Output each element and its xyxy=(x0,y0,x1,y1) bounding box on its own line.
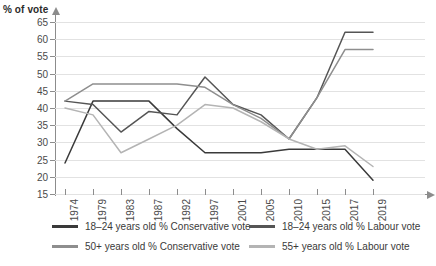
legend-swatch-icon xyxy=(249,245,275,247)
chart-legend: 18–24 years old % Conservative vote 18–2… xyxy=(0,221,436,261)
legend-label: 18–24 years old % Labour vote xyxy=(282,221,420,232)
x-axis-tick-mark xyxy=(317,189,318,195)
x-axis-tick-label: 2019 xyxy=(377,199,388,221)
y-axis-tick-label: 65 xyxy=(18,17,48,28)
legend-swatch-icon xyxy=(52,225,78,227)
x-axis-tick-label: 1992 xyxy=(181,199,192,221)
legend-item-0[interactable]: 18–24 years old % Conservative vote xyxy=(52,221,251,232)
x-axis-arrow-icon xyxy=(427,191,435,199)
y-axis-tick-label: 55 xyxy=(18,51,48,62)
series-line-3 xyxy=(65,105,373,167)
x-axis-tick-mark xyxy=(233,189,234,195)
legend-swatch-icon xyxy=(249,225,275,227)
y-axis-tick-label: 45 xyxy=(18,85,48,96)
x-axis-tick-label: 1979 xyxy=(97,199,108,221)
x-axis-tick-mark xyxy=(149,189,150,195)
legend-item-3[interactable]: 55+ years old % Labour vote xyxy=(249,241,410,252)
series-lines xyxy=(55,22,425,194)
x-axis-tick-mark xyxy=(373,189,374,195)
y-axis-tick-label: 25 xyxy=(18,154,48,165)
y-axis-tick-label: 60 xyxy=(18,34,48,45)
y-axis-tick-label: 35 xyxy=(18,120,48,131)
y-axis-tick-label: 15 xyxy=(18,189,48,200)
x-axis-tick-label: 1987 xyxy=(153,199,164,221)
x-axis-tick-mark xyxy=(289,189,290,195)
legend-label: 50+ years old % Conservative vote xyxy=(85,241,240,252)
legend-label: 55+ years old % Labour vote xyxy=(282,241,410,252)
x-axis-tick-mark xyxy=(121,189,122,195)
x-axis-tick-label: 1983 xyxy=(125,199,136,221)
legend-row-2: 50+ years old % Conservative vote 55+ ye… xyxy=(0,241,436,261)
legend-swatch-icon xyxy=(52,245,78,247)
legend-label: 18–24 years old % Conservative vote xyxy=(85,221,251,232)
x-axis-tick-mark xyxy=(177,189,178,195)
x-axis-tick-mark xyxy=(205,189,206,195)
series-line-1 xyxy=(65,32,373,139)
legend-item-1[interactable]: 18–24 years old % Labour vote xyxy=(249,221,420,232)
y-axis-tick-label: 30 xyxy=(18,137,48,148)
x-axis-tick-mark xyxy=(65,189,66,195)
series-line-2 xyxy=(65,50,373,139)
legend-item-2[interactable]: 50+ years old % Conservative vote xyxy=(52,241,240,252)
x-axis-tick-mark xyxy=(93,189,94,195)
y-axis-tick-label: 40 xyxy=(18,103,48,114)
x-axis-tick-mark xyxy=(345,189,346,195)
x-axis-tick-label: 2017 xyxy=(349,199,360,221)
x-axis-tick-mark xyxy=(261,189,262,195)
x-axis-tick-label: 1997 xyxy=(209,199,220,221)
x-axis-tick-label: 2001 xyxy=(237,199,248,221)
y-axis-tick-label: 50 xyxy=(18,68,48,79)
y-axis-title: % of vote xyxy=(3,4,48,15)
x-axis-tick-label: 2005 xyxy=(265,199,276,221)
x-axis-tick-label: 2015 xyxy=(321,199,332,221)
x-axis-tick-label: 1974 xyxy=(69,199,80,221)
plot-area xyxy=(55,22,425,194)
gridline xyxy=(55,194,425,195)
x-axis-tick-label: 2010 xyxy=(293,199,304,221)
vote-by-age-line-chart: % of vote 6560555045403530252015 1974197… xyxy=(0,0,436,266)
y-axis-tick-label: 20 xyxy=(18,171,48,182)
legend-row-1: 18–24 years old % Conservative vote 18–2… xyxy=(0,221,436,241)
